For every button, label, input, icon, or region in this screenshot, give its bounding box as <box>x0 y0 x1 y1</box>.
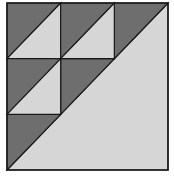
quilt-block-diagram <box>0 0 174 182</box>
